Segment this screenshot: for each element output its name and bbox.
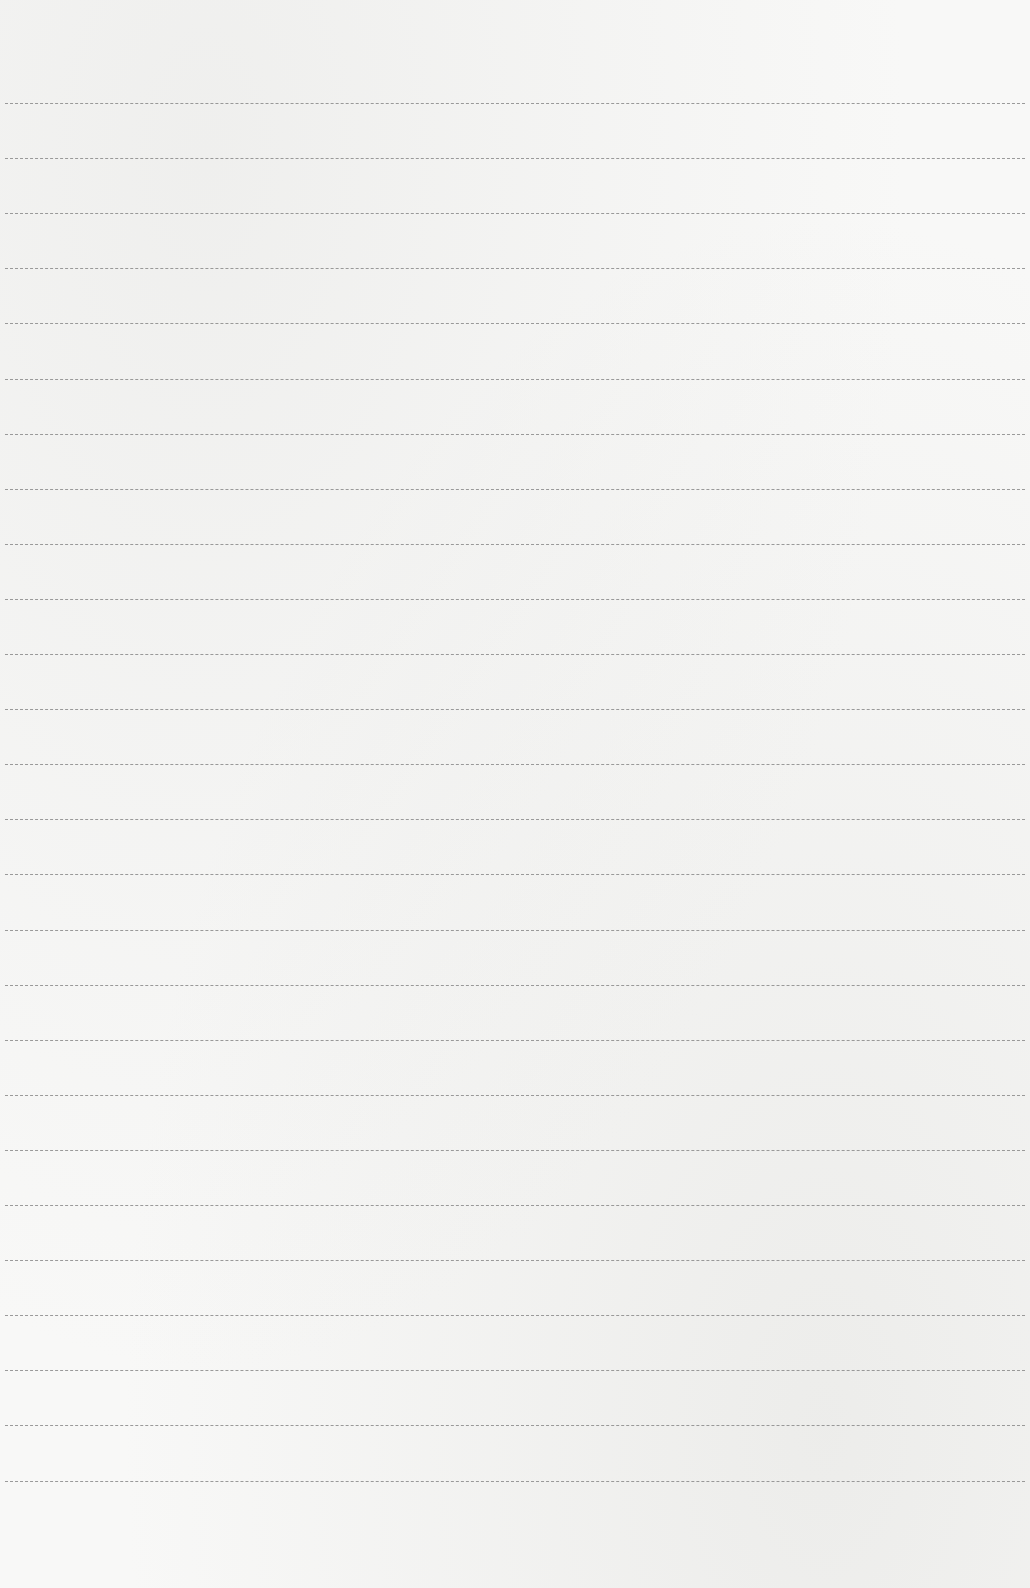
ruled-line [5,268,1025,269]
ruled-line [5,1370,1025,1371]
ruled-line [5,599,1025,600]
ruled-line [5,213,1025,214]
ruled-line [5,985,1025,986]
ruled-line [5,158,1025,159]
ruled-line [5,544,1025,545]
ruled-line [5,1040,1025,1041]
ruled-line [5,1315,1025,1316]
ruled-line [5,379,1025,380]
ruled-line [5,819,1025,820]
ruled-line [5,1260,1025,1261]
ruled-line [5,1481,1025,1482]
ruled-line [5,1205,1025,1206]
lined-paper-sheet [0,0,1030,1588]
ruled-line [5,709,1025,710]
ruled-line [5,434,1025,435]
ruled-line [5,489,1025,490]
ruled-line [5,1425,1025,1426]
ruled-line [5,654,1025,655]
ruled-line [5,930,1025,931]
ruled-line [5,874,1025,875]
ruled-line [5,1095,1025,1096]
ruled-line [5,103,1025,104]
ruled-line [5,764,1025,765]
ruled-line [5,323,1025,324]
ruled-line [5,1150,1025,1151]
